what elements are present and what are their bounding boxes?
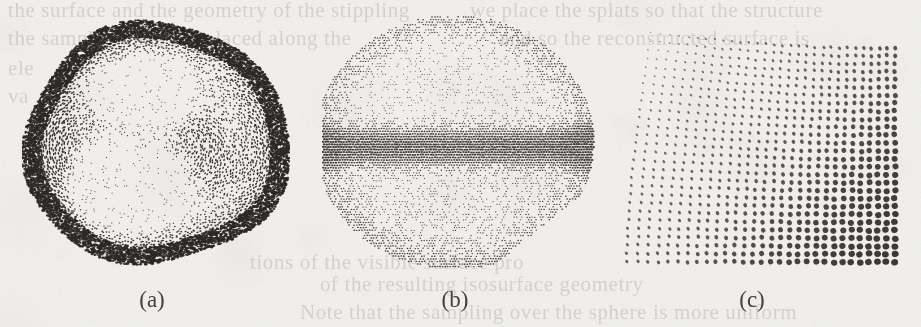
figure-page: the surface and the geometry of the stip… [0,0,921,327]
ghost-text-line: of the resulting isosurface geometry [320,272,644,297]
caption-c: (c) [739,288,765,311]
stipple-canvas-a [22,18,290,270]
caption-b: (b) [442,288,469,311]
panel-a-stippled-sphere [22,18,290,270]
stipple-canvas-b [322,16,598,268]
ghost-text-line: Note that the sampling over the sphere i… [300,300,797,325]
panel-c-dot-field [618,26,902,270]
panel-b-stippled-sphere [322,16,598,268]
caption-a: (a) [139,288,165,311]
dot-field-canvas-c [618,26,902,270]
